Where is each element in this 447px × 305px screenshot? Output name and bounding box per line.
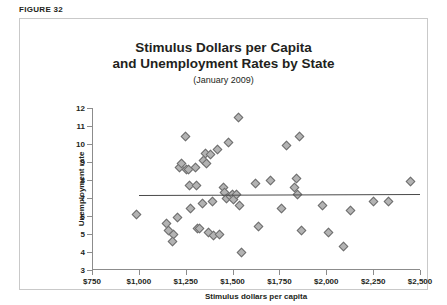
trendline-segment	[139, 194, 420, 196]
data-point	[265, 175, 275, 185]
data-point	[198, 198, 208, 208]
data-point	[368, 197, 378, 207]
x-tick	[186, 270, 187, 275]
data-point	[233, 112, 243, 122]
x-tick-label: $1,750	[267, 277, 291, 286]
data-point	[323, 227, 333, 237]
x-tick	[420, 270, 421, 275]
y-tick	[87, 234, 92, 235]
x-tick-label: $750	[83, 277, 101, 286]
chart-title-line1: Stimulus Dollars per Capita	[135, 40, 311, 55]
data-point	[254, 222, 264, 232]
data-point	[201, 159, 211, 169]
y-tick	[87, 252, 92, 253]
y-tick-label: 3	[81, 266, 85, 275]
x-tick-label: $1,250	[173, 277, 197, 286]
data-point	[224, 137, 234, 147]
x-axis-line	[92, 269, 420, 270]
data-point	[172, 213, 182, 223]
chart-title-line2: and Unemployment Rates by State	[20, 56, 427, 72]
y-tick	[87, 162, 92, 163]
plot-area: 3456789101112 $750$1,000$1,250$1,500$1,7…	[92, 108, 420, 270]
data-point	[346, 206, 356, 216]
data-point	[250, 179, 260, 189]
data-point	[406, 177, 416, 187]
x-tick	[92, 270, 93, 275]
y-tick	[87, 180, 92, 181]
y-axis-title: Unemployment rate	[77, 152, 86, 227]
data-point	[297, 225, 307, 235]
chart-panel: Stimulus Dollars per Capita and Unemploy…	[19, 18, 428, 290]
y-tick	[87, 144, 92, 145]
data-point	[131, 209, 141, 219]
x-tick	[233, 270, 234, 275]
x-tick	[139, 270, 140, 275]
x-tick-label: $2,000	[314, 277, 338, 286]
data-point	[168, 236, 178, 246]
data-point	[191, 180, 201, 190]
y-tick-label: 12	[76, 104, 85, 113]
data-point	[185, 204, 195, 214]
x-tick	[279, 270, 280, 275]
data-point	[383, 197, 393, 207]
x-tick-label: $2,250	[361, 277, 385, 286]
y-tick	[87, 198, 92, 199]
x-tick-label: $1,500	[220, 277, 244, 286]
data-point	[276, 204, 286, 214]
data-point	[208, 197, 218, 207]
data-point	[282, 141, 292, 151]
y-tick-label: 11	[77, 122, 85, 131]
y-axis-line	[92, 108, 93, 270]
chart-title: Stimulus Dollars per Capita and Unemploy…	[20, 40, 427, 72]
y-tick-label: 4	[81, 248, 85, 257]
y-tick	[87, 216, 92, 217]
data-point	[181, 132, 191, 142]
x-axis-title: Stimulus dollars per capita	[92, 292, 420, 301]
figure-container: FIGURE 32 Stimulus Dollars per Capita an…	[0, 0, 447, 305]
figure-label: FIGURE 32	[19, 5, 63, 14]
x-tick	[326, 270, 327, 275]
x-tick-label: $1,000	[127, 277, 151, 286]
y-tick	[87, 108, 92, 109]
data-point	[318, 200, 328, 210]
y-tick-label: 5	[81, 230, 85, 239]
data-point	[294, 132, 304, 142]
x-tick-label: $2,500	[408, 277, 432, 286]
y-tick-label: 10	[76, 140, 85, 149]
data-point	[291, 173, 301, 183]
data-point	[338, 242, 348, 252]
x-tick	[373, 270, 374, 275]
data-point	[236, 247, 246, 257]
y-tick	[87, 126, 92, 127]
chart-subtitle: (January 2009)	[20, 75, 427, 85]
